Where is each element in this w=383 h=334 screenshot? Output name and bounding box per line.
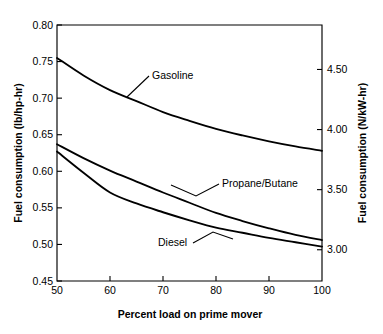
tick-label-right: 4.00 [327, 123, 348, 135]
tick-label-right: 4.50 [327, 63, 348, 75]
tick-label-left: 0.75 [33, 55, 54, 67]
chart-figure: 0.450.500.550.600.650.700.750.80 3.003.5… [0, 0, 383, 334]
fuel-consumption-line-chart: 0.450.500.550.600.650.700.750.80 3.003.5… [0, 0, 383, 334]
tick-label-left: 0.70 [33, 92, 54, 104]
x-axis-title: Percent load on prime mover [118, 308, 263, 320]
tick-label-right: 3.50 [327, 183, 348, 195]
tick-label-left: 0.60 [33, 165, 54, 177]
y-axis-title-left: Fuel consumption (lb/hp-hr) [12, 83, 24, 222]
tick-label-bottom: 80 [210, 284, 222, 296]
tick-label-bottom: 60 [104, 284, 116, 296]
y-axis-title-right: Fuel consumption (N/kW-hr) [356, 83, 368, 223]
tick-label-left: 0.55 [33, 201, 54, 213]
tick-label-bottom: 70 [157, 284, 169, 296]
tick-label-bottom: 100 [313, 284, 331, 296]
tick-label-bottom: 50 [51, 284, 63, 296]
tick-label-right: 3.00 [327, 243, 348, 255]
series-label-propane-butane: Propane/Butane [222, 177, 298, 189]
series-label-diesel: Diesel [158, 236, 187, 248]
tick-label-left: 0.65 [33, 128, 54, 140]
tick-label-left: 0.45 [33, 275, 54, 287]
tick-label-left: 0.80 [33, 19, 54, 31]
tick-label-left: 0.50 [33, 238, 54, 250]
series-label-gasoline: Gasoline [152, 69, 194, 81]
tick-label-bottom: 90 [263, 284, 275, 296]
